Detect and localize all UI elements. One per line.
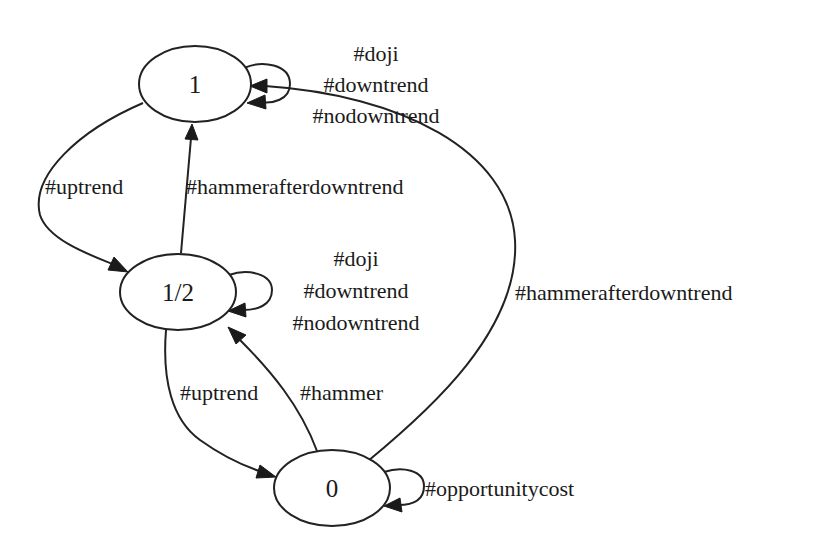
- edge-label: #downtrend: [303, 278, 408, 303]
- arrowhead-icon: [185, 124, 198, 140]
- edge-label: #uptrend: [180, 380, 258, 405]
- node-1: 1: [139, 46, 251, 122]
- node-0-label: 0: [326, 475, 339, 502]
- edge-label: #downtrend: [323, 72, 428, 97]
- edge-label: #hammer: [300, 380, 384, 405]
- edge-label: #doji: [353, 41, 398, 66]
- arrowhead-icon: [256, 465, 276, 478]
- edge-label: #hammerafterdowntrend: [515, 280, 732, 305]
- edge-label: #doji: [333, 246, 378, 271]
- edge-label: #nodowntrend: [292, 310, 419, 335]
- edge-label: #nodowntrend: [312, 103, 439, 128]
- node-half: 1/2: [120, 254, 236, 330]
- arrowhead-icon: [250, 79, 267, 93]
- arrowhead-icon: [247, 95, 266, 109]
- arrowhead-icon: [108, 257, 128, 272]
- arrowhead-icon: [228, 327, 246, 344]
- node-0: 0: [274, 450, 390, 526]
- node-1-label: 1: [189, 71, 202, 98]
- node-half-label: 1/2: [162, 279, 194, 306]
- edge-label: #opportunitycost: [425, 476, 574, 501]
- edge-label: #uptrend: [45, 174, 123, 199]
- edge-label: #hammerafterdowntrend: [186, 174, 403, 199]
- state-diagram: 1 1/2 0 #doji #downtrend #nodowntrend #u…: [0, 0, 838, 558]
